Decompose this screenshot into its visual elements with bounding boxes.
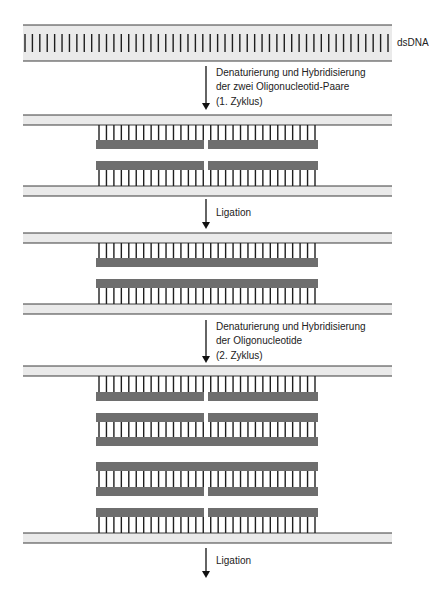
step-label-line: der Oligonucleotide xyxy=(216,334,366,348)
oligonucleotide-bar xyxy=(208,508,318,517)
step-label-line: Denaturierung und Hybridisierung xyxy=(216,320,366,334)
template-strand xyxy=(23,186,392,196)
template-strand xyxy=(23,304,392,314)
ligated-oligonucleotide-bar xyxy=(96,437,318,446)
oligonucleotide-bar xyxy=(96,140,204,149)
template-strand xyxy=(23,233,392,243)
template-strand xyxy=(23,366,392,376)
arrowhead-icon xyxy=(202,356,210,363)
step-label-1: Denaturierung und Hybridisierungder zwei… xyxy=(216,66,366,109)
ligated-oligonucleotide-bar xyxy=(96,258,318,267)
oligonucleotide-bar xyxy=(96,392,204,401)
step-label-line: der zwei Oligonucleotid-Paare xyxy=(216,80,366,94)
step-label-line: Ligation xyxy=(216,206,251,220)
ligated-oligonucleotide-bar xyxy=(96,279,318,288)
oligonucleotide-bar xyxy=(96,487,204,496)
step-label-2: Ligation xyxy=(216,206,251,220)
oligonucleotide-bar xyxy=(208,413,318,422)
step-label-line: (2. Zyklus) xyxy=(216,349,366,363)
step-label-line: Denaturierung und Hybridisierung xyxy=(216,66,366,80)
template-strand xyxy=(23,115,392,125)
template-strand xyxy=(23,533,392,543)
oligonucleotide-bar xyxy=(96,508,204,517)
oligonucleotide-bar xyxy=(208,161,318,170)
step-label-line: (1. Zyklus) xyxy=(216,95,366,109)
arrowhead-icon xyxy=(202,103,210,110)
step-label-line: Ligation xyxy=(216,554,251,568)
step-label-4: Ligation xyxy=(216,554,251,568)
oligonucleotide-bar xyxy=(208,392,318,401)
oligonucleotide-bar xyxy=(208,487,318,496)
oligonucleotide-bar xyxy=(96,161,204,170)
arrowhead-icon xyxy=(202,222,210,229)
arrowhead-icon xyxy=(202,571,210,578)
oligonucleotide-bar xyxy=(96,413,204,422)
dsdna-label: dsDNA xyxy=(397,36,429,50)
step-label-3: Denaturierung und Hybridisierungder Olig… xyxy=(216,320,366,363)
ligated-oligonucleotide-bar xyxy=(96,462,318,471)
oligonucleotide-bar xyxy=(208,140,318,149)
